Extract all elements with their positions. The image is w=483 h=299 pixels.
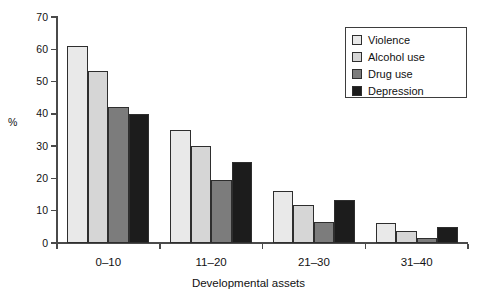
x-tick-0 (56, 244, 58, 249)
y-tick-70 (51, 16, 56, 18)
bar-depression-11-20 (232, 162, 253, 243)
x-tick-label-21-30: 21–30 (274, 256, 354, 268)
bar-alcohol-use-0-10 (88, 71, 109, 243)
legend-swatch-alcohol-use (352, 52, 362, 62)
y-tick-label-0: 0 (22, 238, 48, 248)
y-tick-label-70: 70 (22, 12, 48, 22)
bar-violence-31-40 (376, 223, 397, 243)
legend-label-depression: Depression (368, 86, 424, 97)
y-tick-label-20: 20 (22, 173, 48, 183)
legend-label-violence: Violence (368, 35, 410, 46)
legend: Violence Alcohol use Drug use Depression (345, 27, 467, 98)
x-tick-4 (467, 244, 469, 249)
bar-violence-21-30 (273, 191, 294, 243)
y-tick-10 (51, 210, 56, 212)
x-tick-2 (262, 244, 264, 249)
bar-depression-0-10 (129, 114, 150, 243)
legend-swatch-drug-use (352, 69, 362, 79)
y-tick-40 (51, 113, 56, 115)
bar-drug-use-11-20 (211, 180, 232, 243)
bar-chart: % 010203040506070 0–1011–2021–3031–40 De… (0, 0, 483, 299)
bar-alcohol-use-31-40 (396, 231, 417, 243)
y-tick-20 (51, 178, 56, 180)
y-tick-label-30: 30 (22, 141, 48, 151)
y-tick-30 (51, 145, 56, 147)
bar-violence-0-10 (67, 46, 88, 243)
legend-swatch-depression (352, 86, 362, 96)
y-tick-0 (51, 242, 56, 244)
x-tick-label-0-10: 0–10 (68, 256, 148, 268)
x-tick-label-11-20: 11–20 (171, 256, 251, 268)
y-tick-label-40: 40 (22, 108, 48, 118)
legend-swatch-violence (352, 35, 362, 45)
bar-drug-use-21-30 (314, 222, 335, 243)
y-tick-50 (51, 81, 56, 83)
y-tick-label-10: 10 (22, 205, 48, 215)
legend-item-alcohol-use: Alcohol use (352, 49, 466, 65)
legend-item-drug-use: Drug use (352, 66, 466, 82)
x-tick-label-31-40: 31–40 (377, 256, 457, 268)
x-tick-1 (159, 244, 161, 249)
y-tick-60 (51, 49, 56, 51)
x-axis-title: Developmental assets (0, 277, 483, 289)
legend-label-drug-use: Drug use (368, 69, 413, 80)
y-tick-label-60: 60 (22, 44, 48, 54)
x-axis-title-text: Developmental assets (192, 277, 305, 289)
bar-depression-31-40 (437, 227, 458, 243)
legend-label-alcohol-use: Alcohol use (368, 52, 425, 63)
bar-violence-11-20 (170, 130, 191, 243)
bar-drug-use-0-10 (108, 107, 129, 243)
bar-drug-use-31-40 (417, 238, 438, 243)
legend-item-violence: Violence (352, 32, 466, 48)
bar-alcohol-use-11-20 (191, 146, 212, 243)
y-axis-title: % (8, 116, 17, 128)
bar-alcohol-use-21-30 (293, 205, 314, 243)
y-tick-label-50: 50 (22, 76, 48, 86)
bar-depression-21-30 (334, 200, 355, 243)
x-tick-3 (365, 244, 367, 249)
legend-item-depression: Depression (352, 83, 466, 99)
